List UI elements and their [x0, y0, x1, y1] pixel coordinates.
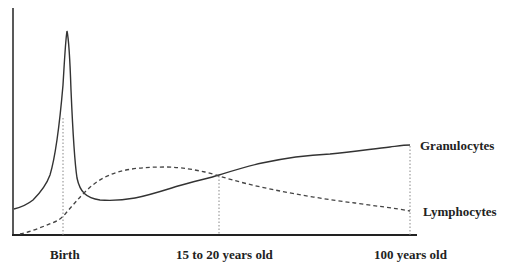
granulocytes-label: Granulocytes — [420, 138, 494, 153]
tick-label-birth: Birth — [50, 247, 80, 262]
lymphocytes-label: Lymphocytes — [423, 204, 497, 219]
lymphocytes-line — [20, 167, 410, 234]
chart: Granulocytes Lymphocytes Birth 15 to 20 … — [0, 0, 523, 275]
tick-label-adolescence: 15 to 20 years old — [176, 247, 274, 262]
tick-label-old-age: 100 years old — [374, 247, 448, 262]
granulocytes-line — [14, 31, 410, 209]
